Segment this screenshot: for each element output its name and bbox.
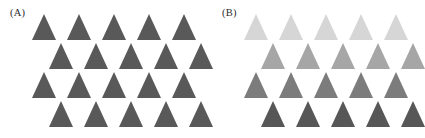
triangle-marker <box>331 43 355 69</box>
triangle-marker <box>244 14 268 40</box>
triangle-marker <box>384 72 408 98</box>
triangle-marker <box>154 43 178 69</box>
triangle-marker <box>401 43 425 69</box>
triangle-marker <box>189 101 213 127</box>
triangle-marker <box>32 72 56 98</box>
triangle-marker <box>349 14 373 40</box>
panel-a-triangle-grid <box>0 0 211 138</box>
triangle-marker <box>261 43 285 69</box>
triangle-marker <box>349 72 373 98</box>
triangle-marker <box>366 101 390 127</box>
panel-a: (A) <box>0 0 211 138</box>
triangle-marker <box>172 14 196 40</box>
triangle-marker <box>102 14 126 40</box>
triangle-marker <box>49 101 73 127</box>
triangle-marker <box>244 72 268 98</box>
triangle-marker <box>261 101 285 127</box>
triangle-marker <box>296 101 320 127</box>
triangle-marker <box>49 43 73 69</box>
triangle-marker <box>119 101 143 127</box>
triangle-marker <box>137 14 161 40</box>
triangle-marker <box>279 72 303 98</box>
triangle-marker <box>84 43 108 69</box>
triangle-marker <box>154 101 178 127</box>
panel-b: (B) <box>212 0 423 138</box>
triangle-marker <box>67 72 91 98</box>
triangle-marker <box>296 43 320 69</box>
triangle-marker <box>279 14 303 40</box>
triangle-marker <box>314 72 338 98</box>
triangle-marker <box>189 43 213 69</box>
triangle-marker <box>401 101 425 127</box>
triangle-marker <box>331 101 355 127</box>
triangle-marker <box>366 43 390 69</box>
triangle-marker <box>384 14 408 40</box>
triangle-marker <box>102 72 126 98</box>
triangle-marker <box>32 14 56 40</box>
triangle-marker <box>137 72 161 98</box>
triangle-marker <box>84 101 108 127</box>
triangle-marker <box>67 14 91 40</box>
triangle-marker <box>314 14 338 40</box>
panel-b-triangle-grid <box>212 0 423 138</box>
triangle-marker <box>172 72 196 98</box>
triangle-marker <box>119 43 143 69</box>
